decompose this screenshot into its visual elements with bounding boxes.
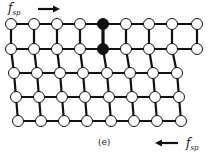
- lattice-node: [52, 44, 63, 55]
- arrow-right-icon: [38, 6, 60, 13]
- lattice-node: [152, 116, 163, 127]
- lattice-node: [9, 68, 20, 79]
- lattice-node: [129, 116, 140, 127]
- lattice-node-filled: [98, 19, 109, 30]
- lattice-node: [75, 44, 86, 55]
- lattice-node: [36, 116, 47, 127]
- lattice-node: [52, 19, 63, 30]
- lattice-node: [150, 92, 161, 103]
- lattice-node: [144, 44, 155, 55]
- lattice-node: [106, 116, 117, 127]
- lattice-node: [121, 19, 132, 30]
- force-label-top: fsp: [8, 1, 21, 17]
- lattice-node: [144, 19, 155, 30]
- arrow-left-icon: [155, 140, 178, 147]
- lattice-node: [29, 44, 40, 55]
- lattice-node: [121, 44, 132, 55]
- lattice-node: [80, 92, 91, 103]
- lattice-node: [34, 92, 45, 103]
- force-label-bottom: fsp: [186, 136, 199, 152]
- lattice-node: [148, 68, 159, 79]
- lattice-node: [78, 68, 89, 79]
- lattice-node: [176, 116, 187, 127]
- lattice-node: [6, 44, 17, 55]
- lattice-node: [32, 68, 43, 79]
- lattice-node: [172, 68, 183, 79]
- lattice-node: [125, 68, 136, 79]
- lattice-node: [192, 19, 203, 30]
- lattice-node: [104, 92, 115, 103]
- lattice-node: [29, 19, 40, 30]
- lattice-node: [75, 19, 86, 30]
- lattice-node: [174, 92, 185, 103]
- lattice-node-filled: [98, 44, 109, 55]
- lattice-node: [82, 116, 93, 127]
- lattice-node: [167, 19, 178, 30]
- figure-caption: (e): [98, 137, 110, 147]
- lattice-node: [127, 92, 138, 103]
- lattice-node: [11, 92, 22, 103]
- lattice-node: [57, 92, 68, 103]
- lattice-node: [192, 44, 203, 55]
- lattice-node: [102, 68, 113, 79]
- lattice-diagram: [0, 0, 211, 155]
- lattice-node: [6, 19, 17, 30]
- lattice-node: [167, 44, 178, 55]
- lattice-node: [55, 68, 66, 79]
- lattice-node: [59, 116, 70, 127]
- lattice-node: [13, 116, 24, 127]
